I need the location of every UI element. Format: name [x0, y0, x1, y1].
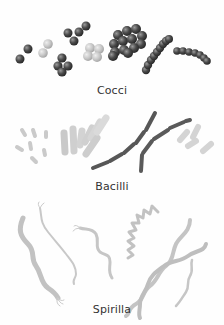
sarcina-dark [53, 53, 72, 76]
spirillum-4 [128, 206, 158, 258]
bacilli-label: Bacilli [0, 180, 224, 193]
bacilli-palisade [64, 118, 106, 154]
single-bacilli-small [17, 130, 46, 162]
short-chain-dark [64, 22, 91, 46]
streptococcus-chain-diagonal [142, 35, 173, 74]
single-bacilli-light [180, 127, 211, 151]
cocci-label: Cocci [0, 84, 224, 97]
spirilla-label: Spirilla [0, 303, 224, 316]
diplococcus-light [38, 39, 53, 58]
spirilla-panel: Spirilla [0, 200, 224, 325]
spirillum-1 [20, 218, 58, 298]
tetrad-light [83, 43, 104, 62]
spirillum-7 [176, 260, 192, 306]
staphylococcus-cluster [108, 24, 147, 61]
spirillum-3 [80, 228, 112, 278]
spirillum-2 [40, 208, 76, 284]
cocci-panel: Cocci [0, 0, 224, 100]
streptococcus-chain-curved [173, 47, 211, 65]
diplococcus-dark [16, 45, 33, 64]
bacilli-panel: Bacilli [0, 100, 224, 200]
